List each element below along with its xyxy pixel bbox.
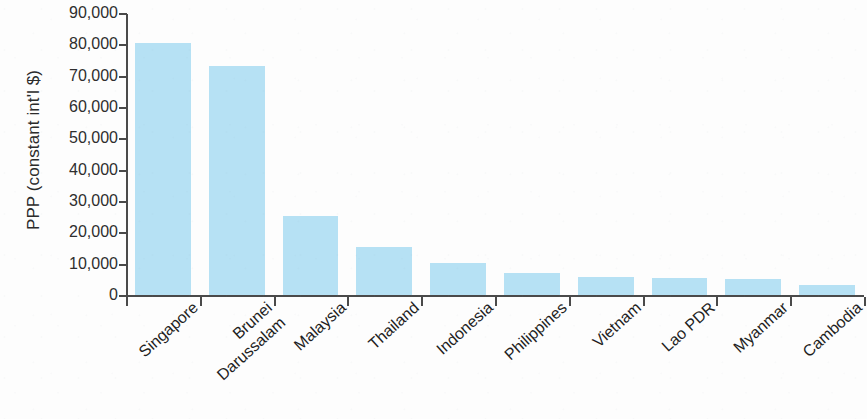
- y-axis-tick-label: 80,000: [8, 35, 118, 53]
- x-axis-category-label-line: Philippines: [501, 299, 570, 363]
- x-axis-category-label-line: Thailand: [365, 299, 422, 353]
- bar: [209, 66, 265, 295]
- x-axis-category-label-line: Myanmar: [730, 299, 791, 356]
- y-axis-tick: [119, 107, 127, 109]
- bar: [430, 263, 486, 295]
- x-axis-tick: [347, 297, 349, 306]
- y-axis-tick: [119, 13, 127, 15]
- bar: [135, 43, 191, 295]
- bar: [504, 273, 560, 295]
- x-axis-category-label-line: Malaysia: [290, 299, 348, 354]
- y-axis-line: [126, 14, 128, 297]
- x-axis-category-label-line: Indonesia: [433, 299, 496, 358]
- bar: [799, 285, 855, 295]
- x-axis-tick: [126, 297, 128, 306]
- x-axis-tick: [200, 297, 202, 306]
- y-axis-tick: [119, 201, 127, 203]
- x-axis-tick: [495, 297, 497, 306]
- y-axis-tick-label: 0: [8, 286, 118, 304]
- y-axis-tick-label: 90,000: [8, 4, 118, 22]
- bar: [652, 278, 708, 295]
- bar: [578, 277, 634, 295]
- x-axis-tick: [569, 297, 571, 306]
- x-axis-category-label-line: Lao PDR: [658, 299, 718, 355]
- x-axis-category-label-line: Singapore: [135, 299, 201, 360]
- x-axis-tick: [274, 297, 276, 306]
- y-axis-tick-label: 50,000: [8, 129, 118, 147]
- plot-area: 010,00020,00030,00040,00050,00060,00070,…: [126, 14, 864, 296]
- bar: [725, 279, 781, 295]
- x-axis-tick: [643, 297, 645, 306]
- y-axis-tick-label: 30,000: [8, 192, 118, 210]
- x-axis-tick: [864, 297, 866, 306]
- y-axis-tick-label: 70,000: [8, 67, 118, 85]
- y-axis-tick-label: 40,000: [8, 161, 118, 179]
- x-axis-tick: [421, 297, 423, 306]
- x-axis-category-label-line: Vietnam: [589, 299, 644, 351]
- x-axis-tick: [790, 297, 792, 306]
- y-axis-tick: [119, 232, 127, 234]
- y-axis-tick-label: 10,000: [8, 255, 118, 273]
- bar: [283, 216, 339, 295]
- x-axis-category-label-line: Cambodia: [800, 299, 866, 360]
- bar: [356, 247, 412, 295]
- y-axis-tick: [119, 76, 127, 78]
- y-axis-tick: [119, 264, 127, 266]
- y-axis-tick-label: 20,000: [8, 223, 118, 241]
- y-axis-tick: [119, 44, 127, 46]
- y-axis-tick-label: 60,000: [8, 98, 118, 116]
- y-axis-tick: [119, 138, 127, 140]
- x-axis-tick: [716, 297, 718, 306]
- y-axis-tick: [119, 170, 127, 172]
